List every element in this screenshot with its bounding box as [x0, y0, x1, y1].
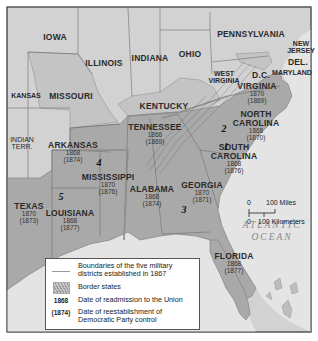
label-indiana: INDIANA: [132, 54, 169, 63]
state-arkansas: ARKANSAS 1868 (1874): [48, 141, 98, 164]
label-missouri: MISSOURI: [49, 92, 93, 101]
label-iowa: IOWA: [43, 33, 66, 42]
label-kentucky: KENTUCKY: [140, 102, 189, 111]
district-number-5: 5: [59, 191, 64, 202]
state-south-carolina: SOUTH CAROLINA 1868 (1876): [211, 143, 257, 174]
label-kansas: KANSAS: [11, 92, 41, 99]
state-north-carolina: NORTH CAROLINA 1868 (1870): [233, 110, 279, 141]
state-florida: FLORIDA 1868 (1877): [214, 252, 253, 275]
legend-key-year: 1868: [48, 297, 74, 304]
legend-text: districts established in 1867: [78, 270, 172, 278]
district-number-1: 1: [224, 141, 229, 152]
label-indian-territory: INDIANTERR.: [10, 136, 34, 151]
district-number-2: 2: [222, 123, 227, 134]
state-tennessee: TENNESSEE 1866 (1869): [128, 123, 181, 146]
legend-text: Democratic Party control: [78, 316, 162, 324]
scale-km-zero: 0: [247, 218, 251, 225]
state-georgia: GEORGIA 1870 (1871): [181, 181, 223, 204]
state-virginia: VIRGINIA 1870 (1869): [237, 82, 276, 105]
state-mississippi: MISSISSIPPI 1870 (1876): [82, 173, 135, 196]
district-number-3: 3: [182, 204, 187, 215]
state-alabama: ALABAMA 1868 (1874): [130, 185, 174, 208]
scale-miles-label: 100 Miles: [266, 199, 296, 206]
legend-key-year-paren: (1874): [48, 309, 74, 316]
border-states-swatch: [53, 282, 70, 294]
legend-text: Border states: [78, 283, 121, 291]
label-maryland: MARYLAND: [272, 69, 312, 76]
label-delaware: DEL.: [288, 58, 308, 67]
scale-miles-zero: 0: [247, 199, 251, 206]
scale-km-label: 100 Kilometers: [258, 218, 305, 225]
map-legend: Boundaries of the five military district…: [45, 258, 200, 330]
district-boundary-line-swatch: [52, 271, 70, 272]
label-illinois: ILLINOIS: [85, 59, 123, 68]
district-number-4: 4: [97, 157, 102, 168]
label-ohio: OHIO: [179, 50, 202, 59]
label-pennsylvania: PENNSYLVANIA: [217, 30, 285, 39]
label-dc: D.C.: [252, 71, 270, 80]
state-louisiana: LOUISIANA 1868 (1877): [46, 209, 95, 232]
label-new-jersey: NEWJERSEY: [286, 40, 316, 55]
legend-text: Date of readmission to the Union: [78, 296, 183, 304]
state-texas: TEXAS 1870 (1873): [14, 202, 43, 225]
